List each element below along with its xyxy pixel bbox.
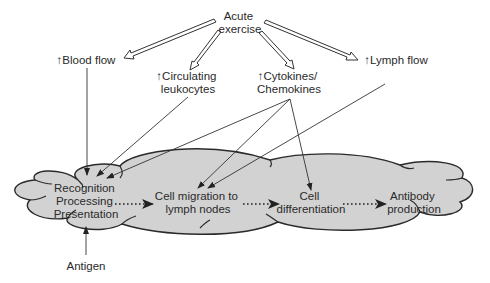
hollow-arrow-leukocytes [190,30,221,70]
stage-recognition-label: Recognition Processing Presentation [54,182,119,220]
antigen-label: Antigen [66,260,105,272]
cytokines-chemokines-label: ↑Cytokines/ Chemokines [257,70,321,95]
stage-antibody-label: Antibody production [387,190,441,215]
acute-exercise-label: Acute exercise [219,10,262,35]
hollow-arrow-cytokines [259,31,294,69]
blood-flow-label: ↑Blood flow [57,54,117,66]
lymph-flow-label: ↑Lymph flow [364,54,428,66]
immune-response-diagram: Acute exercise ↑Blood flow ↑Circulating … [0,0,490,283]
circulating-leukocytes-label: ↑Circulating leukocytes [156,70,219,95]
stage-migration-label: Cell migration to lymph nodes [155,190,241,215]
